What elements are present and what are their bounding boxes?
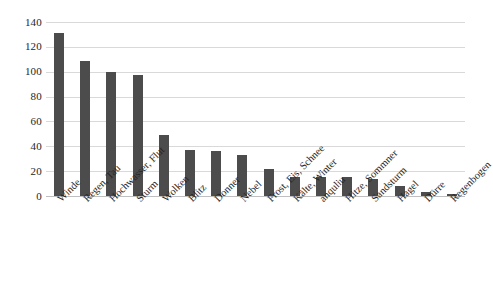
bar-slot — [229, 22, 255, 196]
x-label-slot: Sturm — [125, 196, 151, 290]
x-label-slot: Wolken — [151, 196, 177, 290]
x-label-slot: Regen, Tau — [72, 196, 98, 290]
bar-slot — [46, 22, 72, 196]
x-label-slot: Nebel — [229, 196, 255, 290]
y-axis-tick-label: 0 — [2, 191, 42, 202]
y-axis-tick-label: 60 — [2, 116, 42, 127]
x-label-slot: Winde — [46, 196, 72, 290]
x-label-slot: anquliu — [308, 196, 334, 290]
x-label-slot: Frost, Eis, Schnee — [256, 196, 282, 290]
x-label-slot: Donner — [203, 196, 229, 290]
y-axis-tick-label: 40 — [2, 141, 42, 152]
bar-slot — [177, 22, 203, 196]
bar — [159, 135, 169, 196]
y-axis-tick-label: 140 — [2, 17, 42, 28]
x-label-slot: Dürre — [413, 196, 439, 290]
x-label-slot: Hitze, Sommner — [334, 196, 360, 290]
y-axis-tick-label: 20 — [2, 166, 42, 177]
y-axis: 140120100806040200 — [0, 0, 42, 290]
x-label-slot: Hagel — [386, 196, 412, 290]
bar-slot — [439, 22, 465, 196]
bar-slot — [334, 22, 360, 196]
x-label-slot: Kälte, Winter — [282, 196, 308, 290]
bar — [54, 33, 64, 196]
y-axis-tick-label: 120 — [2, 41, 42, 52]
x-label-slot: Regenbogen — [439, 196, 465, 290]
x-label-slot: Hochwasser, Flut — [98, 196, 124, 290]
bar-slot — [203, 22, 229, 196]
x-axis: WindeRegen, TauHochwasser, FlutSturmWolk… — [46, 196, 465, 290]
x-label-slot: Blitz — [177, 196, 203, 290]
x-label-slot: Sandsturm — [360, 196, 386, 290]
bar-slot — [413, 22, 439, 196]
bar — [80, 61, 90, 196]
y-axis-tick-label: 100 — [2, 66, 42, 77]
bar-slot — [151, 22, 177, 196]
bar-slot — [256, 22, 282, 196]
y-axis-tick-label: 80 — [2, 91, 42, 102]
bar-slot — [72, 22, 98, 196]
